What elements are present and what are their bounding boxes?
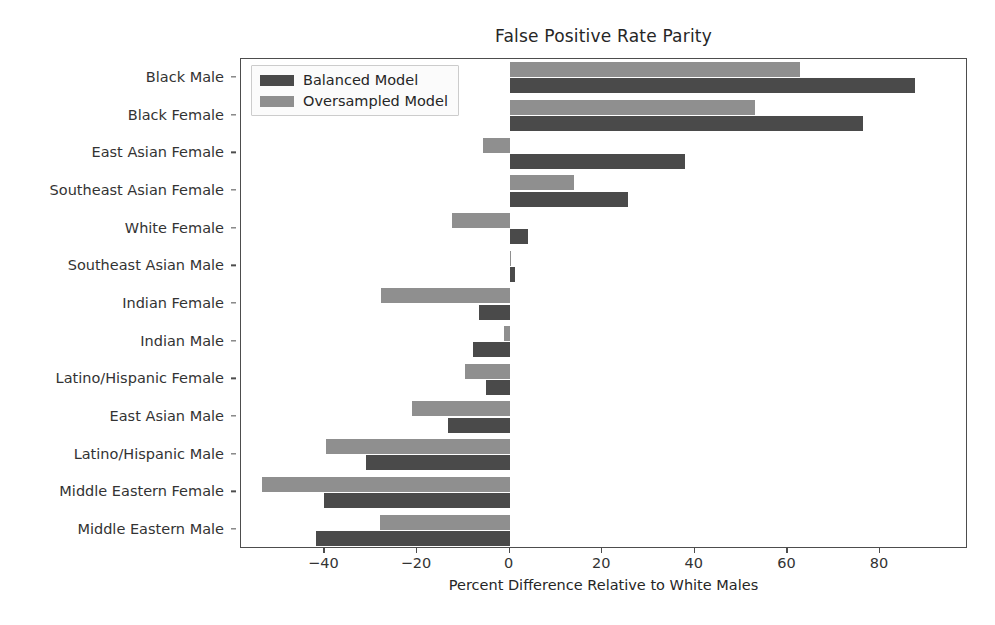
y-tick-mark bbox=[231, 415, 236, 416]
bar-oversampled-model-indian-male bbox=[504, 326, 510, 341]
x-tick-mark bbox=[879, 548, 880, 553]
x-tick-label: 80 bbox=[870, 555, 888, 571]
y-tick-mark bbox=[231, 227, 236, 228]
x-tick-label: 60 bbox=[777, 555, 795, 571]
bar-oversampled-model-white-female bbox=[452, 213, 510, 228]
y-tick-label: White Female bbox=[125, 220, 224, 236]
x-tick-mark bbox=[786, 548, 787, 553]
x-axis: −40−20020406080 bbox=[240, 548, 967, 568]
legend-label: Balanced Model bbox=[303, 72, 418, 88]
bar-balanced-model-white-female bbox=[510, 229, 528, 244]
x-tick-label: 0 bbox=[504, 555, 513, 571]
legend-item: Balanced Model bbox=[260, 72, 448, 88]
bar-oversampled-model-east-asian-male bbox=[412, 401, 509, 416]
y-tick-mark bbox=[231, 378, 236, 379]
y-axis: Black MaleBlack FemaleEast Asian FemaleS… bbox=[0, 58, 236, 548]
y-tick-label: Southeast Asian Female bbox=[50, 182, 224, 198]
bar-oversampled-model-middle-eastern-male bbox=[380, 515, 510, 530]
x-tick-mark bbox=[694, 548, 695, 553]
bar-oversampled-model-black-male bbox=[510, 62, 800, 77]
bar-balanced-model-latino-hispanic-male bbox=[366, 455, 510, 470]
plot-area: Balanced ModelOversampled Model bbox=[240, 58, 967, 548]
chart-legend: Balanced ModelOversampled Model bbox=[251, 65, 459, 116]
y-tick-label: Indian Male bbox=[140, 333, 224, 349]
y-tick-mark bbox=[231, 76, 236, 77]
y-tick-mark bbox=[231, 528, 236, 529]
bar-balanced-model-east-asian-female bbox=[510, 154, 685, 169]
bar-balanced-model-indian-female bbox=[479, 305, 509, 320]
y-tick-label: East Asian Male bbox=[110, 408, 224, 424]
bar-oversampled-model-east-asian-female bbox=[483, 138, 510, 153]
bar-balanced-model-black-female bbox=[510, 116, 863, 131]
bar-balanced-model-black-male bbox=[510, 78, 916, 93]
bar-oversampled-model-black-female bbox=[510, 100, 755, 115]
chart-title: False Positive Rate Parity bbox=[240, 26, 967, 46]
y-tick-label: Southeast Asian Male bbox=[68, 257, 224, 273]
legend-swatch-icon bbox=[260, 75, 294, 86]
bar-balanced-model-southeast-asian-male bbox=[510, 267, 515, 282]
y-tick-mark bbox=[231, 340, 236, 341]
x-tick-label: −20 bbox=[401, 555, 432, 571]
bar-oversampled-model-latino-hispanic-female bbox=[465, 364, 510, 379]
y-tick-mark bbox=[231, 265, 236, 266]
legend-swatch-icon bbox=[260, 96, 294, 107]
y-tick-mark bbox=[231, 491, 236, 492]
x-axis-title: Percent Difference Relative to White Mal… bbox=[240, 577, 967, 593]
y-tick-label: Middle Eastern Female bbox=[59, 483, 224, 499]
x-tick-label: −40 bbox=[308, 555, 339, 571]
x-tick-mark bbox=[416, 548, 417, 553]
x-tick-label: 20 bbox=[592, 555, 610, 571]
y-tick-mark bbox=[231, 189, 236, 190]
bar-balanced-model-east-asian-male bbox=[448, 418, 510, 433]
bar-balanced-model-latino-hispanic-female bbox=[486, 380, 509, 395]
legend-label: Oversampled Model bbox=[303, 93, 448, 109]
bar-balanced-model-middle-eastern-male bbox=[316, 531, 509, 546]
x-tick-label: 40 bbox=[685, 555, 703, 571]
y-tick-label: East Asian Female bbox=[91, 144, 224, 160]
bar-oversampled-model-latino-hispanic-male bbox=[326, 439, 509, 454]
y-tick-mark bbox=[231, 114, 236, 115]
x-tick-mark bbox=[509, 548, 510, 553]
y-tick-mark bbox=[231, 302, 236, 303]
y-tick-label: Middle Eastern Male bbox=[77, 521, 224, 537]
bar-balanced-model-southeast-asian-female bbox=[510, 192, 628, 207]
y-tick-mark bbox=[231, 453, 236, 454]
y-tick-label: Latino/Hispanic Female bbox=[56, 370, 224, 386]
x-tick-mark bbox=[323, 548, 324, 553]
x-tick-mark bbox=[601, 548, 602, 553]
bar-balanced-model-middle-eastern-female bbox=[324, 493, 509, 508]
bar-oversampled-model-southeast-asian-male bbox=[510, 251, 512, 266]
y-tick-mark bbox=[231, 152, 236, 153]
y-tick-label: Latino/Hispanic Male bbox=[74, 446, 224, 462]
legend-item: Oversampled Model bbox=[260, 93, 448, 109]
y-tick-label: Black Female bbox=[128, 107, 224, 123]
chart-figure: False Positive Rate Parity Black MaleBla… bbox=[0, 0, 995, 625]
y-tick-label: Black Male bbox=[146, 69, 224, 85]
bar-oversampled-model-middle-eastern-female bbox=[262, 477, 509, 492]
y-tick-label: Indian Female bbox=[122, 295, 224, 311]
bar-oversampled-model-indian-female bbox=[381, 288, 509, 303]
bar-balanced-model-indian-male bbox=[473, 342, 510, 357]
bar-oversampled-model-southeast-asian-female bbox=[510, 175, 575, 190]
